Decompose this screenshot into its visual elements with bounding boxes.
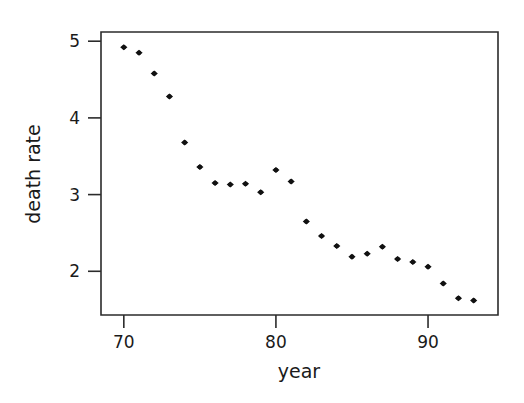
scatter-plot-figure: 2345 708090 year death rate <box>0 0 524 403</box>
data-point-core <box>122 45 126 49</box>
y-tick-label: 2 <box>69 261 80 281</box>
data-point-core <box>456 296 460 300</box>
data-point-core <box>182 140 186 144</box>
y-tick-label: 3 <box>69 185 80 205</box>
data-point-core <box>259 190 263 194</box>
data-point-core <box>319 234 323 238</box>
data-point-core <box>198 165 202 169</box>
data-point-core <box>152 71 156 75</box>
y-tick-label: 5 <box>69 31 80 51</box>
data-point-core <box>426 264 430 268</box>
data-point-core <box>395 257 399 261</box>
x-tick-label: 80 <box>265 332 287 352</box>
data-point-core <box>137 51 141 55</box>
data-point-core <box>365 251 369 255</box>
data-point-core <box>289 179 293 183</box>
data-point-core <box>350 255 354 259</box>
y-tick-label: 4 <box>69 108 80 128</box>
data-point-core <box>213 181 217 185</box>
data-point-core <box>411 260 415 264</box>
data-point-core <box>471 298 475 302</box>
data-point-core <box>243 182 247 186</box>
data-point-core <box>167 94 171 98</box>
x-axis-label: year <box>278 360 321 382</box>
data-point-core <box>304 219 308 223</box>
data-point-core <box>228 182 232 186</box>
x-tick-label: 90 <box>417 332 439 352</box>
data-point-core <box>335 244 339 248</box>
x-tick-label: 70 <box>113 332 135 352</box>
y-axis-label: death rate <box>22 124 44 224</box>
data-point-core <box>441 281 445 285</box>
data-point-core <box>274 168 278 172</box>
data-point-core <box>380 245 384 249</box>
